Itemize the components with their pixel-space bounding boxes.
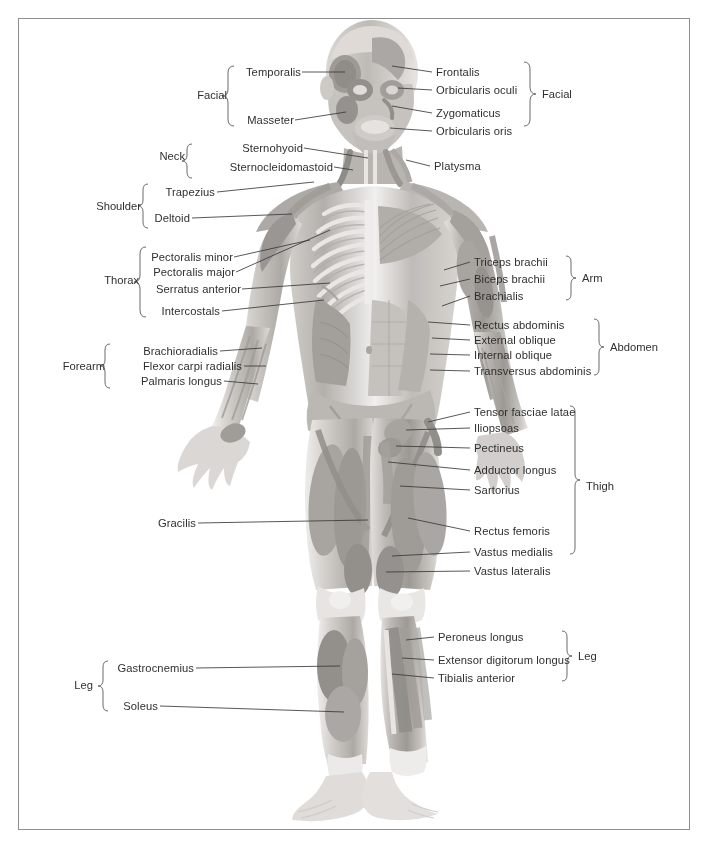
label-iliopsoas: Iliopsoas <box>474 422 519 434</box>
label-pectineus: Pectineus <box>474 442 524 454</box>
label-transversus-abdominis: Transversus abdominis <box>474 365 591 377</box>
bracket-arm <box>566 256 576 300</box>
label-palmaris-longus: Palmaris longus <box>141 375 222 387</box>
leader-rectus-abdominis <box>428 322 470 325</box>
group-abdomen: Abdomen <box>610 341 658 353</box>
label-orbicularis-oculi: Orbicularis oculi <box>436 84 517 96</box>
leader-brachialis <box>442 296 470 306</box>
leader-internal-oblique <box>430 354 470 355</box>
leader-vastus-medialis <box>392 552 470 556</box>
label-intercostals: Intercostals <box>162 305 220 317</box>
leader-iliopsoas <box>406 428 470 430</box>
label-internal-oblique: Internal oblique <box>474 349 552 361</box>
label-platysma: Platysma <box>434 160 481 172</box>
leader-deltoid <box>192 214 292 218</box>
leader-extensor-digitorum-longus <box>402 658 434 660</box>
label-sternohyoid: Sternohyoid <box>242 142 303 154</box>
group-facial-left: Facial <box>197 89 227 101</box>
leader-palmaris-longus <box>224 381 258 384</box>
leader-adductor-longus <box>388 462 470 470</box>
leader-pectineus <box>396 446 470 448</box>
leader-triceps-brachii <box>444 262 470 270</box>
leader-tensor-fasciae-latae <box>428 412 470 422</box>
label-gastrocnemius: Gastrocnemius <box>117 662 194 674</box>
bracket-thigh <box>570 406 580 554</box>
label-deltoid: Deltoid <box>154 212 190 224</box>
leader-biceps-brachii <box>440 279 470 286</box>
leader-brachioradialis <box>220 348 262 351</box>
label-rectus-abdominis: Rectus abdominis <box>474 319 565 331</box>
label-temporalis: Temporalis <box>246 66 301 78</box>
leader-vastus-lateralis <box>386 571 470 572</box>
label-brachialis: Brachialis <box>474 290 524 302</box>
label-brachioradialis: Brachioradialis <box>143 345 218 357</box>
leader-rectus-femoris <box>408 518 470 531</box>
label-triceps-brachii: Triceps brachii <box>474 256 548 268</box>
leader-sartorius <box>400 486 470 490</box>
bracket-leg-left <box>98 661 108 711</box>
leader-pectoralis-minor <box>234 240 310 257</box>
group-leg-left: Leg <box>74 679 93 691</box>
leader-tibialis-anterior <box>392 674 434 678</box>
leader-gracilis <box>198 520 368 523</box>
label-trapezius: Trapezius <box>165 186 215 198</box>
leader-platysma <box>406 160 430 166</box>
bracket-abdomen <box>594 319 604 375</box>
leader-frontalis <box>392 66 432 72</box>
label-vastus-lateralis: Vastus lateralis <box>474 565 551 577</box>
leader-peroneus-longus <box>406 637 434 640</box>
label-extensor-digitorum-longus: Extensor digitorum longus <box>438 654 570 666</box>
label-sartorius: Sartorius <box>474 484 520 496</box>
group-thorax: Thorax <box>104 274 139 286</box>
leader-sternocleidomastoid <box>334 167 353 170</box>
group-neck: Neck <box>160 150 186 162</box>
leader-soleus <box>160 706 344 712</box>
label-tensor-fasciae-latae: Tensor fasciae latae <box>474 406 576 418</box>
leader-orbicularis-oculi <box>398 88 432 90</box>
label-serratus-anterior: Serratus anterior <box>156 283 241 295</box>
label-tibialis-anterior: Tibialis anterior <box>438 672 515 684</box>
group-forearm: Forearm <box>63 360 105 372</box>
leader-external-oblique <box>432 338 470 340</box>
label-flexor-carpi-radialis: Flexor carpi radialis <box>143 360 242 372</box>
leader-zygomaticus <box>392 106 432 113</box>
group-leg-right: Leg <box>578 650 597 662</box>
label-sternocleidomastoid: Sternocleidomastoid <box>230 161 333 173</box>
leader-gastrocnemius <box>196 666 340 668</box>
label-orbicularis-oris: Orbicularis oris <box>436 125 512 137</box>
label-adductor-longus: Adductor longus <box>474 464 556 476</box>
label-peroneus-longus: Peroneus longus <box>438 631 523 643</box>
label-biceps-brachii: Biceps brachii <box>474 273 545 285</box>
bracket-facial-right <box>524 62 536 126</box>
label-zygomaticus: Zygomaticus <box>436 107 501 119</box>
label-rectus-femoris: Rectus femoris <box>474 525 550 537</box>
group-shoulder: Shoulder <box>96 200 141 212</box>
label-masseter: Masseter <box>247 114 294 126</box>
group-facial-right: Facial <box>542 88 572 100</box>
leader-intercostals <box>222 300 324 311</box>
label-vastus-medialis: Vastus medialis <box>474 546 553 558</box>
label-frontalis: Frontalis <box>436 66 480 78</box>
label-external-oblique: External oblique <box>474 334 556 346</box>
leader-masseter <box>295 112 346 120</box>
leader-pectoralis-major <box>236 230 330 272</box>
leader-orbicularis-oris <box>390 128 432 131</box>
label-pectoralis-minor: Pectoralis minor <box>151 251 233 263</box>
label-soleus: Soleus <box>123 700 158 712</box>
leader-sternohyoid <box>304 148 368 158</box>
leader-transversus-abdominis <box>430 370 470 371</box>
leader-serratus-anterior <box>242 283 330 289</box>
leader-lines-layer <box>0 0 709 849</box>
label-pectoralis-major: Pectoralis major <box>153 266 235 278</box>
group-thigh: Thigh <box>586 480 614 492</box>
leader-trapezius <box>217 182 314 192</box>
group-arm: Arm <box>582 272 603 284</box>
label-gracilis: Gracilis <box>158 517 196 529</box>
